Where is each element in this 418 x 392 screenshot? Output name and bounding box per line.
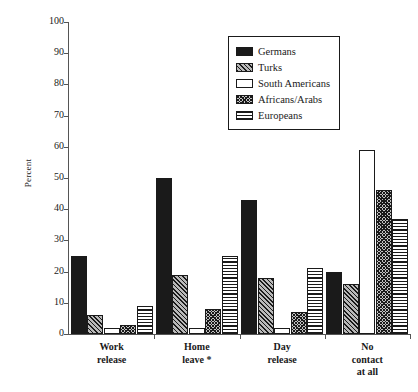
x-label-home-leave: Home leave *: [154, 341, 239, 366]
x-label-work-release: Work release: [69, 341, 154, 366]
x-axis-end-tick: [410, 334, 411, 339]
x-label-day-release: Day release: [240, 341, 325, 366]
y-tick-label: 50: [54, 171, 64, 182]
bar-work-release-south-americans: [104, 328, 120, 334]
bar-no-contact-at-all-germans: [326, 272, 342, 334]
legend-item-germans: Germans: [236, 43, 330, 59]
x-group-separator: [325, 334, 326, 339]
legend-label: Europeans: [258, 110, 302, 121]
legend-swatch-europeans-icon: [236, 111, 253, 120]
bar-day-release-south-americans: [274, 328, 290, 334]
x-group-separator: [240, 334, 241, 339]
bar-group-home-leave: [154, 22, 239, 334]
bar-work-release-germans: [71, 256, 87, 334]
legend-swatch-turks-icon: [236, 63, 253, 72]
y-tick-label: 10: [54, 296, 64, 307]
legend-swatch-africans-arabs-icon: [236, 95, 253, 104]
y-tick-label: 80: [54, 77, 64, 88]
legend-label: Africans/Arabs: [258, 94, 322, 105]
bar-day-release-europeans: [307, 268, 323, 334]
legend-label: Turks: [258, 62, 282, 73]
bar-day-release-africans-arabs: [291, 312, 307, 334]
y-tick-label: 0: [59, 327, 64, 338]
bar-day-release-germans: [241, 200, 257, 334]
legend-item-turks: Turks: [236, 59, 330, 75]
bar-home-leave-south-americans: [189, 328, 205, 334]
bar-home-leave-germans: [156, 178, 172, 334]
y-tick-label: 30: [54, 233, 64, 244]
bar-group-work-release: [69, 22, 154, 334]
y-tick-label: 60: [54, 140, 64, 151]
bar-no-contact-at-all-turks: [343, 284, 359, 334]
legend-swatch-germans-icon: [236, 47, 253, 56]
legend-item-europeans: Europeans: [236, 107, 330, 123]
bar-work-release-turks: [87, 315, 103, 334]
bar-no-contact-at-all-south-americans: [359, 150, 375, 334]
legend-item-south-americans: South Americans: [236, 75, 330, 91]
y-tick-label: 90: [54, 46, 64, 57]
bar-no-contact-at-all-europeans: [392, 219, 408, 334]
bar-work-release-europeans: [137, 306, 153, 334]
legend-swatch-south-americans-icon: [236, 79, 253, 88]
bar-no-contact-at-all-africans-arabs: [376, 190, 392, 334]
y-axis-title: Percent: [23, 133, 33, 213]
y-tick-label: 20: [54, 265, 64, 276]
bar-work-release-africans-arabs: [120, 325, 136, 334]
legend: GermansTurksSouth AmericansAfricans/Arab…: [228, 36, 340, 130]
legend-label: Germans: [258, 46, 296, 57]
y-tick-label: 40: [54, 202, 64, 213]
y-tick-label: 100: [49, 15, 64, 26]
x-group-separator: [154, 334, 155, 339]
bar-chart: Percent 1009080706050403020100 Work rele…: [0, 0, 418, 392]
bar-home-leave-turks: [172, 275, 188, 334]
x-label-no-contact-at-all: No contact at all: [325, 341, 410, 379]
bar-day-release-turks: [258, 278, 274, 334]
legend-item-africans-arabs: Africans/Arabs: [236, 91, 330, 107]
legend-label: South Americans: [258, 78, 330, 89]
y-tick-label: 70: [54, 109, 64, 120]
bar-home-leave-europeans: [222, 256, 238, 334]
bar-home-leave-africans-arabs: [205, 309, 221, 334]
